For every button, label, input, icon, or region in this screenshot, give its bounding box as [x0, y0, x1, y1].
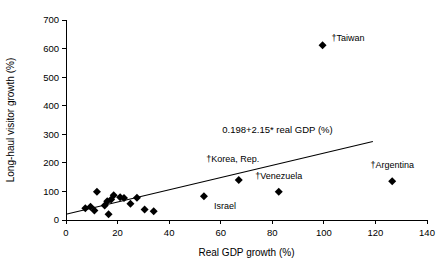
label-taiwan: †Taiwan: [332, 33, 365, 43]
y-axis-tick-label: 700: [43, 14, 59, 25]
data-point-marker: [93, 188, 101, 196]
data-point-marker: [150, 207, 158, 215]
x-axis-tick-label: 140: [419, 227, 435, 238]
label-argentina: †Argentina: [370, 160, 414, 170]
label-venezuela: †Venezuela: [255, 171, 302, 181]
x-axis: 020406080100120140: [63, 220, 435, 238]
data-point-marker: [275, 188, 283, 196]
chart-figure: 0100200300400500600700 02040608010012014…: [0, 0, 445, 276]
data-point-marker: [319, 41, 327, 49]
data-point-marker: [105, 210, 113, 218]
x-axis-tick-label: 80: [267, 227, 278, 238]
x-axis-tick-label: 100: [316, 227, 332, 238]
annotations-group: 0.198+2.15* real GDP (%): [222, 124, 332, 135]
y-axis-tick-label: 400: [43, 100, 59, 111]
scatter-plot-svg: 0100200300400500600700 02040608010012014…: [0, 0, 445, 276]
label-korea-rep: †Korea, Rep.: [206, 154, 259, 164]
y-axis-tick-label: 300: [43, 129, 59, 140]
x-axis-title: Real GDP growth (%): [199, 247, 295, 258]
y-axis-tick-label: 200: [43, 157, 59, 168]
y-axis: 0100200300400500600700: [43, 14, 66, 225]
label-israel: Israel: [214, 201, 236, 211]
y-axis-title: Long-haul visitor growth (%): [5, 58, 16, 183]
data-point-marker: [126, 200, 134, 208]
data-point-marker: [235, 176, 243, 184]
x-axis-tick-label: 20: [112, 227, 123, 238]
regression-equation: 0.198+2.15* real GDP (%): [222, 124, 332, 135]
x-axis-tick-label: 0: [63, 227, 68, 238]
y-axis-tick-label: 0: [54, 214, 59, 225]
x-axis-tick-label: 60: [215, 227, 226, 238]
x-axis-tick-label: 40: [164, 227, 175, 238]
y-axis-tick-label: 500: [43, 72, 59, 83]
data-point-labels-group: †Taiwan†Korea, Rep.†Venezuela†ArgentinaI…: [206, 33, 414, 211]
y-axis-tick-label: 100: [43, 186, 59, 197]
data-point-marker: [133, 194, 141, 202]
data-point-marker: [141, 205, 149, 213]
x-axis-tick-label: 120: [367, 227, 383, 238]
data-point-marker: [200, 192, 208, 200]
y-axis-tick-label: 600: [43, 43, 59, 54]
data-point-marker: [388, 177, 396, 185]
